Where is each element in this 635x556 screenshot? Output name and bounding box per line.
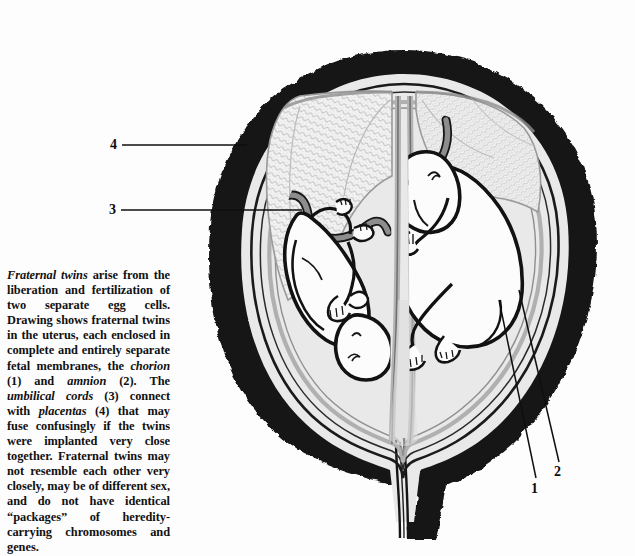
label-4-placentas: 4 (110, 138, 117, 152)
caption-body-3: (2). The (106, 374, 170, 388)
figure-caption: Fraternal twins arise from the liberatio… (7, 268, 170, 555)
label-2-amnion: 2 (554, 465, 561, 479)
caption-term-chorion: chorion (130, 359, 170, 373)
label-3-umbilical-cords: 3 (109, 203, 116, 217)
caption-term-amnion: amnion (67, 374, 106, 388)
caption-lead-term: Fraternal twins (7, 268, 88, 282)
label-1-chorion: 1 (531, 482, 538, 496)
caption-body-1: arise from the liberation and fertilizat… (7, 268, 170, 373)
caption-term-umbilical-cords: umbilical cords (7, 389, 93, 403)
illustration-page: 4 3 1 2 Fraternal twins arise from the l… (0, 0, 635, 556)
caption-body-2: (1) and (7, 374, 67, 388)
caption-body-5: (4) that may fuse confusingly if the twi… (7, 404, 170, 554)
caption-term-placentas: placentas (39, 404, 87, 418)
